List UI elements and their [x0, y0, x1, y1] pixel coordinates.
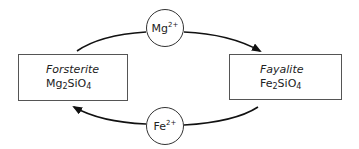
fe-ion-label: Fe2+: [154, 120, 177, 133]
formula-subscript: 4: [296, 82, 301, 91]
ion-symbol: Fe: [154, 120, 167, 133]
ion-charge: 2+: [168, 21, 178, 29]
arrow-fe-to-forsterite: [74, 107, 146, 124]
mg-ion-label: Mg2+: [152, 22, 179, 35]
formula-subscript: 4: [86, 82, 91, 91]
ion-symbol: Mg: [152, 22, 168, 35]
fe-ion-circle: Fe2+: [146, 107, 184, 145]
fayalite-formula: Fe2SiO4: [260, 77, 304, 91]
forsterite-formula: Mg2SiO4: [46, 77, 99, 91]
arc-forsterite-to-mg: [77, 32, 146, 51]
mg-ion-circle: Mg2+: [146, 9, 184, 47]
fayalite-box: Fayalite Fe2SiO4: [229, 54, 342, 100]
formula-element: Fe: [260, 77, 273, 90]
forsterite-box: Forsterite Mg2SiO4: [18, 54, 128, 101]
formula-element: SiO: [278, 77, 297, 90]
formula-element: SiO: [68, 77, 87, 90]
arrow-mg-to-fayalite: [184, 32, 260, 51]
fayalite-name: Fayalite: [260, 63, 304, 77]
formula-element: Mg: [46, 77, 62, 90]
forsterite-name: Forsterite: [46, 63, 99, 77]
arc-fayalite-to-fe: [184, 107, 258, 125]
ion-charge: 2+: [166, 119, 176, 127]
